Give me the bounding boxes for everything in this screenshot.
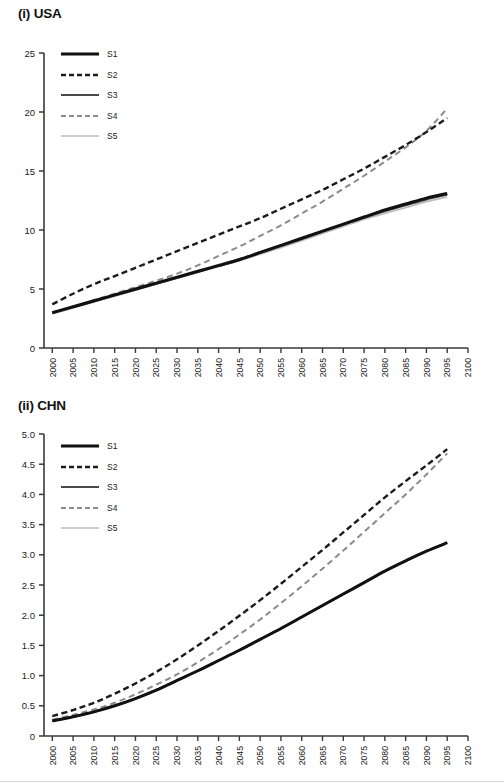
x-tick-label: 2070 <box>338 358 348 377</box>
legend-label-s5: S5 <box>107 132 117 141</box>
legend-swatch-s4 <box>60 111 100 121</box>
legend-chn-row-s2: S2 <box>60 457 117 478</box>
x-tick-label: 2100 <box>463 746 473 765</box>
x-tick-label: 2065 <box>318 746 328 765</box>
legend-swatch-s3 <box>60 90 100 100</box>
legend-swatch-s5 <box>60 523 100 533</box>
legend-label-s5: S5 <box>107 524 117 533</box>
legend-chn-row-s5: S5 <box>60 518 117 539</box>
x-tick-label: 2095 <box>442 746 452 765</box>
x-tick-label: 2090 <box>422 746 432 765</box>
x-tick-label: 2075 <box>359 358 369 377</box>
legend-label-s2: S2 <box>107 71 117 80</box>
y-tick-label: 5.0 <box>22 429 35 440</box>
x-tick-label: 2025 <box>151 746 161 765</box>
x-tick-label: 2050 <box>255 746 265 765</box>
y-tick-label: 15 <box>24 166 35 177</box>
x-tick-label: 2025 <box>151 358 161 377</box>
x-tick-label: 2030 <box>172 746 182 765</box>
y-tick-label: 0 <box>30 731 35 742</box>
x-tick-label: 2070 <box>338 746 348 765</box>
legend-swatch-s5 <box>60 131 100 141</box>
chart-panel-usa: (i) USA 05101520252000200520102015202020… <box>0 0 504 392</box>
series-line-s1 <box>52 543 447 721</box>
y-tick-label: 5 <box>30 284 35 295</box>
legend-label-s1: S1 <box>107 442 117 451</box>
y-tick-label: 3.0 <box>22 549 35 560</box>
x-tick-label: 2065 <box>318 358 328 377</box>
x-tick-label: 2060 <box>297 746 307 765</box>
x-tick-label: 2020 <box>131 358 141 377</box>
legend-usa-row-s3: S3 <box>60 85 117 106</box>
x-tick-label: 2040 <box>214 746 224 765</box>
x-tick-label: 2035 <box>193 358 203 377</box>
footer-divider <box>0 781 504 782</box>
legend-chn-row-s1: S1 <box>60 436 117 457</box>
x-tick-label: 2005 <box>68 358 78 377</box>
y-tick-label: 25 <box>24 48 35 59</box>
legend-swatch-s3 <box>60 482 100 492</box>
x-tick-label: 2050 <box>255 358 265 377</box>
x-tick-label: 2075 <box>359 746 369 765</box>
legend-label-s1: S1 <box>107 50 117 59</box>
y-tick-label: 10 <box>24 225 35 236</box>
legend-chn-row-s4: S4 <box>60 498 117 519</box>
x-tick-label: 2055 <box>276 746 286 765</box>
legend-swatch-s1 <box>60 441 100 451</box>
legend-label-s3: S3 <box>107 483 117 492</box>
y-tick-label: 2.0 <box>22 610 35 621</box>
y-tick-label: 4.0 <box>22 489 35 500</box>
x-tick-label: 2100 <box>463 358 473 377</box>
y-tick-label: 0 <box>30 343 35 354</box>
y-tick-label: 1.5 <box>22 640 35 651</box>
chart-panel-chn: (ii) CHN 00.51.01.52.02.53.03.54.04.55.0… <box>0 392 504 784</box>
x-tick-label: 2085 <box>401 358 411 377</box>
legend-usa-row-s1: S1 <box>60 44 117 65</box>
legend-usa-row-s4: S4 <box>60 106 117 127</box>
x-tick-label: 2045 <box>235 746 245 765</box>
legend-usa: S1S2S3S4S5 <box>60 44 117 147</box>
legend-chn: S1S2S3S4S5 <box>60 436 117 539</box>
y-tick-label: 1.0 <box>22 670 35 681</box>
y-tick-label: 4.5 <box>22 459 35 470</box>
y-tick-label: 3.5 <box>22 519 35 530</box>
legend-chn-row-s3: S3 <box>60 477 117 498</box>
x-tick-label: 2000 <box>48 746 58 765</box>
x-tick-label: 2015 <box>110 746 120 765</box>
x-tick-label: 2080 <box>380 358 390 377</box>
x-tick-label: 2010 <box>89 358 99 377</box>
legend-label-s4: S4 <box>107 504 117 513</box>
legend-label-s2: S2 <box>107 463 117 472</box>
legend-swatch-s2 <box>60 462 100 472</box>
x-tick-label: 2015 <box>110 358 120 377</box>
x-tick-label: 2085 <box>401 746 411 765</box>
x-tick-label: 2030 <box>172 358 182 377</box>
x-tick-label: 2000 <box>48 358 58 377</box>
legend-swatch-s4 <box>60 503 100 513</box>
x-tick-label: 2005 <box>68 746 78 765</box>
x-tick-label: 2040 <box>214 358 224 377</box>
x-tick-label: 2090 <box>422 358 432 377</box>
x-tick-label: 2095 <box>442 358 452 377</box>
x-tick-label: 2035 <box>193 746 203 765</box>
x-tick-label: 2060 <box>297 358 307 377</box>
y-tick-label: 20 <box>24 107 35 118</box>
x-tick-label: 2020 <box>131 746 141 765</box>
legend-usa-row-s2: S2 <box>60 65 117 86</box>
legend-label-s4: S4 <box>107 112 117 121</box>
x-tick-label: 2080 <box>380 746 390 765</box>
legend-usa-row-s5: S5 <box>60 126 117 147</box>
x-tick-label: 2055 <box>276 358 286 377</box>
x-tick-label: 2045 <box>235 358 245 377</box>
y-tick-label: 2.5 <box>22 580 35 591</box>
legend-swatch-s1 <box>60 49 100 59</box>
x-tick-label: 2010 <box>89 746 99 765</box>
legend-swatch-s2 <box>60 70 100 80</box>
legend-label-s3: S3 <box>107 91 117 100</box>
y-tick-label: 0.5 <box>22 700 35 711</box>
